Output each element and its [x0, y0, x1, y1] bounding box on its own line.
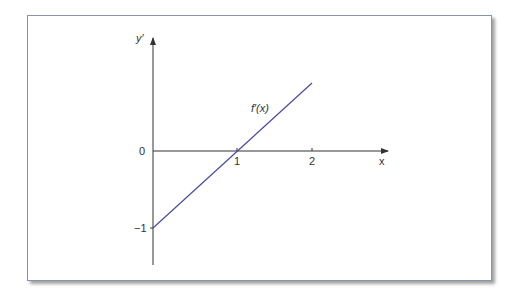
y-tick-label-0: 0 — [139, 145, 145, 157]
y-axis-label: y′ — [135, 32, 145, 44]
x-tick-label-2: 2 — [309, 155, 315, 167]
y-tick-label-minus1: −1 — [134, 222, 147, 234]
curve-label: f′(x) — [251, 102, 269, 114]
x-tick-label-1: 1 — [234, 155, 240, 167]
curve-f-prime — [153, 83, 312, 228]
x-axis-label: x — [379, 155, 385, 167]
chart-canvas: y′ x 1 2 0 −1 f′(x) — [0, 0, 519, 295]
